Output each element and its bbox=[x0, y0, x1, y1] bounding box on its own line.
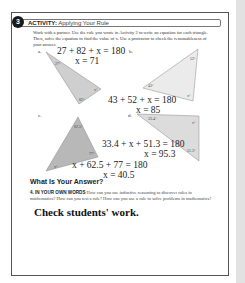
triangle-a-angle-1: 27° bbox=[55, 61, 61, 66]
part-d-solution: x = 95.3 bbox=[144, 149, 175, 160]
question-4-heading: IN YOUR OWN WORDS bbox=[35, 190, 85, 195]
triangle-d-angle-1: 33.4° bbox=[148, 116, 157, 121]
triangle-c-angle-1: 62.5° bbox=[74, 124, 83, 129]
triangle-c-angle-3: x° bbox=[54, 164, 58, 169]
part-a-label: a. bbox=[38, 49, 41, 54]
part-d-label: d. bbox=[128, 113, 132, 118]
part-a-solution: x = 71 bbox=[75, 56, 99, 67]
triangle-a-angle-2: 82° bbox=[79, 97, 85, 102]
triangle-d-angle-3: 51.3° bbox=[187, 148, 196, 153]
part-b-solution: x = 85 bbox=[136, 105, 160, 116]
triangle-b-angle-1: 52° bbox=[190, 56, 196, 61]
triangle-c-angle-2: 77° bbox=[89, 151, 95, 156]
question-4: 4. IN YOUR OWN WORDS How can you use ind… bbox=[30, 190, 215, 201]
what-is-your-answer-heading: What Is Your Answer? bbox=[30, 178, 103, 185]
part-c-solution: x = 40.5 bbox=[103, 170, 134, 181]
part-b-label: b. bbox=[129, 49, 133, 54]
triangle-b-angle-3: x° bbox=[187, 93, 191, 98]
part-c-label: c. bbox=[38, 113, 41, 118]
question-4-number: 4. bbox=[30, 190, 34, 195]
triangle-a-angle-3: x° bbox=[94, 87, 98, 92]
triangle-b-angle-2: 43° bbox=[148, 83, 154, 88]
triangle-d-angle-2: x° bbox=[192, 120, 196, 125]
answer-text: Check students' work. bbox=[34, 206, 139, 218]
